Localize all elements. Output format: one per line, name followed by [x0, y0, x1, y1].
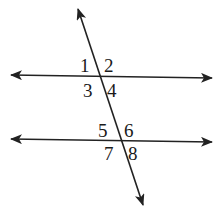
lower-parallel-line [11, 139, 212, 142]
angle-label-8: 8 [128, 143, 138, 164]
angle-label-7: 7 [104, 143, 114, 164]
angle-label-1: 1 [80, 55, 90, 76]
angle-label-4: 4 [107, 80, 117, 101]
angle-label-3: 3 [83, 80, 93, 101]
transversal-line [78, 9, 143, 205]
diagram-canvas: 1 2 3 4 5 6 7 8 [0, 0, 219, 215]
angle-label-5: 5 [98, 120, 108, 141]
angle-label-6: 6 [124, 120, 134, 141]
angle-label-2: 2 [104, 55, 114, 76]
angle-labels: 1 2 3 4 5 6 7 8 [80, 55, 138, 164]
parallel-lines-diagram: 1 2 3 4 5 6 7 8 [0, 0, 219, 215]
